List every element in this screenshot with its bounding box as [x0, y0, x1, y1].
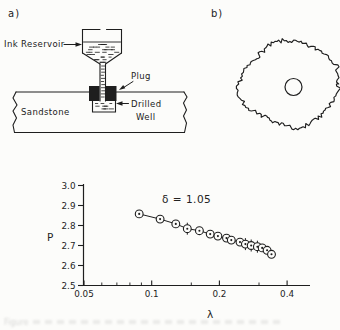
x-tick-label: 0.05 — [74, 289, 94, 299]
data-point-dot — [244, 243, 246, 245]
dissolution-front-drawing — [236, 39, 340, 130]
scanned-figure-page: 3.02.92.82.72.62.50.050.10.20.4 a) b) In… — [0, 0, 340, 330]
data-point-dot — [159, 218, 161, 220]
ink-reservoir-label: Ink Reservoir — [4, 39, 65, 49]
data-point-dot — [270, 253, 272, 255]
sandstone-right-broken-edge — [184, 92, 188, 133]
plug-arrow-head — [119, 85, 125, 90]
data-point-dot — [230, 239, 232, 241]
data-point-dot — [186, 228, 188, 230]
data-point-dot — [250, 244, 252, 246]
y-tick-label: 2.9 — [62, 201, 76, 211]
drilled-well-arrow-head — [116, 101, 123, 105]
data-point-dot — [266, 249, 268, 251]
caption-blur-strip — [33, 320, 283, 324]
sandstone-left-broken-edge — [13, 92, 17, 133]
plug-right-block — [106, 86, 117, 101]
delta-annotation: δ = 1.05 — [162, 193, 211, 205]
cropped-caption-line: Figure — [4, 317, 338, 327]
data-point-dot — [239, 241, 241, 243]
x-tick-label: 0.1 — [145, 289, 159, 299]
sandstone-label: Sandstone — [21, 107, 70, 117]
data-point-dot — [261, 247, 263, 249]
x-tick-label: 0.4 — [280, 289, 294, 299]
y-tick-label: 3.0 — [62, 181, 76, 191]
caption-fragment-text: Figure — [4, 318, 28, 327]
drilled-well-label-line1: Drilled — [131, 99, 162, 109]
feed-tube — [100, 64, 106, 101]
plug-label: Plug — [131, 71, 151, 81]
data-point-dot — [175, 223, 177, 225]
y-tick-label: 2.6 — [62, 261, 76, 271]
figure-drawing: 3.02.92.82.72.62.50.050.10.20.4 — [0, 0, 340, 330]
dissolution-front-outline — [236, 39, 340, 130]
data-point-dot — [217, 235, 219, 237]
panel-a-label: a) — [8, 8, 20, 19]
data-point-dot — [198, 230, 200, 232]
y-axis-label: P — [47, 231, 54, 243]
y-tick-label: 2.7 — [62, 241, 76, 251]
data-point-dot — [209, 233, 211, 235]
panel-b-label: b) — [211, 8, 223, 19]
y-tick-label: 2.8 — [62, 221, 76, 231]
ink-reservoir-arrow-head — [76, 42, 83, 46]
plug-arrow-line — [124, 82, 133, 88]
x-tick-label: 0.2 — [212, 289, 226, 299]
plug-left-block — [89, 86, 100, 101]
data-point-dot — [138, 213, 140, 215]
drilled-well-label-line2: Well — [136, 112, 155, 122]
injection-hole-circle — [285, 79, 302, 96]
